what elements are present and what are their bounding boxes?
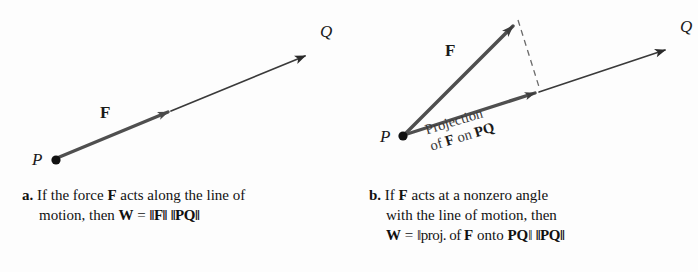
caption-b-line1-post: acts at a nonzero angle <box>408 187 548 203</box>
figure-canvas: P Q F a. If the force F acts along the l… <box>0 0 698 272</box>
point-p-dot <box>398 131 407 140</box>
caption-b-line3-w: W <box>386 227 401 243</box>
panel-a-vector-drawing <box>0 0 349 180</box>
caption-a-norm-f: ‖F‖ <box>150 207 167 223</box>
force-vector-label: F <box>100 104 110 121</box>
force-vector-shaft <box>57 112 168 158</box>
pq-vector-shaft <box>539 50 665 92</box>
point-p-dot <box>51 155 60 164</box>
caption-b-line3-onto: onto <box>473 227 507 243</box>
force-vector-label: F <box>445 42 455 59</box>
caption-a-tag: a. <box>22 187 33 203</box>
caption-b-norm-open: ‖proj. of <box>417 227 464 243</box>
caption-b-line3-pq: PQ <box>507 227 528 243</box>
point-p-label: P <box>32 151 42 168</box>
point-p-label: P <box>380 128 390 145</box>
caption-a: a. If the force F acts along the line of… <box>22 186 334 226</box>
caption-a-line2-pre: motion, then <box>39 207 119 223</box>
caption-b-line3-f: F <box>464 227 473 243</box>
panel-a-force-along-line: P Q F a. If the force F acts along the l… <box>0 0 349 272</box>
caption-b-line1-pre: If <box>381 187 399 203</box>
panel-b-force-at-angle: P Q F Projection of F on PQ b. If F acts… <box>349 0 698 272</box>
caption-b-line3-eq: = <box>401 227 417 243</box>
point-q-label: Q <box>320 23 332 40</box>
caption-a-norm-pq: ‖PQ‖ <box>171 207 200 223</box>
pq-vector-shaft <box>171 56 305 111</box>
caption-a-line2-eq: = <box>134 207 150 223</box>
caption-b-line1-f: F <box>399 187 408 203</box>
caption-a-line1-pre: If the force <box>33 187 107 203</box>
caption-a-line2-w: W <box>119 207 134 223</box>
panel-b-vector-drawing <box>349 0 698 180</box>
caption-b-tag: b. <box>369 187 381 203</box>
caption-a-line1-f: F <box>107 187 116 203</box>
caption-b: b. If F acts at a nonzero angle with the… <box>369 186 689 245</box>
caption-b-line2: with the line of motion, then <box>369 206 689 226</box>
caption-a-line1-post: acts along the line of <box>117 187 246 203</box>
point-q-label: Q <box>680 18 692 35</box>
projection-dashed-drop-line <box>518 20 540 90</box>
caption-b-norm-pq: ‖PQ‖ <box>536 227 565 243</box>
